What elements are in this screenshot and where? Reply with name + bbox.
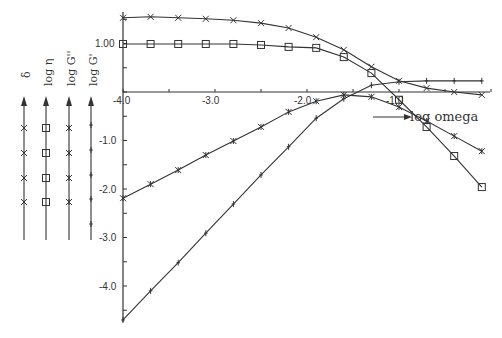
asterisk-marker-icon: [66, 150, 72, 156]
arrow-head-icon: [66, 96, 72, 106]
series-x: [120, 14, 485, 98]
y-tick-label: 1.00: [95, 38, 115, 49]
legend-label-delta: δ: [20, 71, 33, 78]
axis-ticks: [123, 19, 491, 310]
rheology-chart: 1.00 -4.0 -3.0 -2.0 -1.0 -1.0 -2.0 -3.0 …: [0, 0, 502, 338]
asterisk-marker-icon: [66, 199, 72, 205]
tick-labels: 1.00 -4.0 -3.0 -2.0 -1.0 -1.0 -2.0 -3.0 …: [95, 38, 404, 292]
plus-marker-icon: [89, 147, 93, 153]
asterisk-marker-icon: [120, 195, 126, 201]
legend-label-eta: log η: [42, 59, 55, 86]
plus-marker-icon: [480, 78, 484, 84]
legend-entry: [66, 96, 72, 240]
plus-marker-icon: [89, 221, 93, 227]
asterisk-marker-icon: [203, 152, 209, 158]
asterisk-marker-icon: [66, 125, 72, 131]
arrow-head-icon: [43, 96, 49, 106]
plus-marker-icon: [89, 122, 93, 128]
x-tick-label: -3.0: [202, 95, 220, 106]
asterisk-marker-icon: [396, 104, 402, 110]
x-marker-icon: [313, 34, 319, 40]
plus-marker-icon: [452, 78, 456, 84]
plus-marker-icon: [89, 172, 93, 178]
legend-label-gpp: log G'': [65, 50, 78, 86]
x-marker-icon: [341, 47, 347, 53]
asterisk-marker-icon: [148, 181, 154, 187]
arrow-head-icon: [21, 96, 27, 106]
plus-marker-icon: [314, 115, 318, 121]
plus-marker-icon: [370, 82, 374, 88]
asterisk-marker-icon: [66, 175, 72, 181]
x-axis-label: log omega: [410, 109, 479, 124]
asterisk-marker-icon: [286, 109, 292, 115]
asterisk-marker-icon: [175, 167, 181, 173]
legend-entry: [88, 96, 94, 240]
legend: δ log η log G'' log G': [20, 50, 100, 240]
asterisk-marker-icon: [479, 148, 485, 154]
asterisk-marker-icon: [451, 133, 457, 139]
asterisk-marker-icon: [230, 138, 236, 144]
plus-marker-icon: [89, 196, 93, 202]
plus-marker-icon: [425, 78, 429, 84]
y-tick-label: -3.0: [99, 232, 117, 243]
data-series: [120, 14, 486, 323]
y-tick-label: -4.0: [99, 281, 117, 292]
axes: [123, 12, 490, 322]
legend-entry: [43, 96, 50, 240]
y-tick-label: -1.0: [99, 135, 117, 146]
plus-marker-icon: [287, 144, 291, 150]
legend-label-gp: log G': [87, 54, 100, 87]
arrow-head-icon: [88, 96, 94, 106]
y-tick-label: -2.0: [99, 184, 117, 195]
x-tick-label: -4.0: [113, 95, 131, 106]
asterisk-marker-icon: [258, 124, 264, 130]
legend-entry: [21, 96, 27, 240]
x-marker-icon: [368, 64, 374, 70]
series-line: [123, 17, 482, 95]
